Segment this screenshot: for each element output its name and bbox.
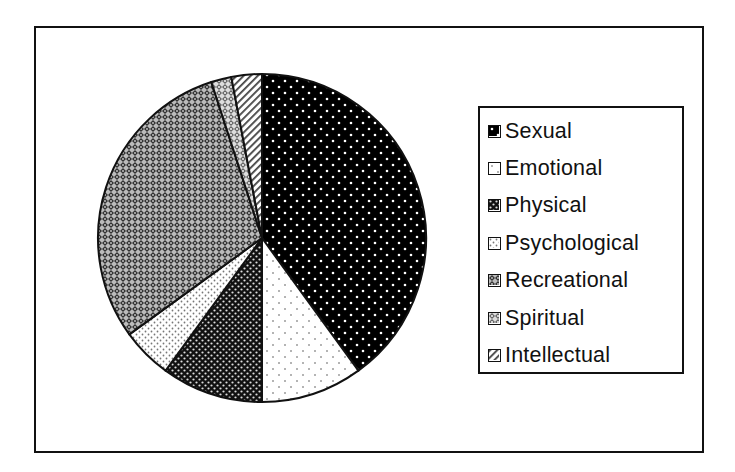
legend-label: Psychological bbox=[505, 231, 639, 256]
legend-item-psychological: Psychological bbox=[488, 228, 639, 258]
legend-item-emotional: Emotional bbox=[488, 153, 602, 183]
swatch-psychological-icon bbox=[488, 237, 501, 250]
swatch-physical-icon bbox=[488, 199, 501, 212]
legend-label: Spiritual bbox=[505, 306, 584, 331]
legend-label: Physical bbox=[505, 193, 587, 218]
legend-item-recreational: Recreational bbox=[488, 265, 628, 295]
legend-item-spiritual: Spiritual bbox=[488, 303, 584, 333]
legend-label: Intellectual bbox=[505, 343, 610, 368]
swatch-sexual-icon bbox=[488, 125, 501, 138]
swatch-recreational-icon bbox=[488, 274, 501, 287]
legend-label: Sexual bbox=[505, 119, 572, 144]
legend-label: Emotional bbox=[505, 156, 602, 181]
legend-item-physical: Physical bbox=[488, 190, 587, 220]
swatch-emotional-icon bbox=[488, 162, 501, 175]
legend-label: Recreational bbox=[505, 268, 628, 293]
swatch-spiritual-icon bbox=[488, 312, 501, 325]
chart-legend: Sexual Emotional Physical Psychological … bbox=[478, 106, 684, 374]
legend-item-intellectual: Intellectual bbox=[488, 340, 610, 370]
swatch-intellectual-icon bbox=[488, 349, 501, 362]
legend-item-sexual: Sexual bbox=[488, 116, 572, 146]
